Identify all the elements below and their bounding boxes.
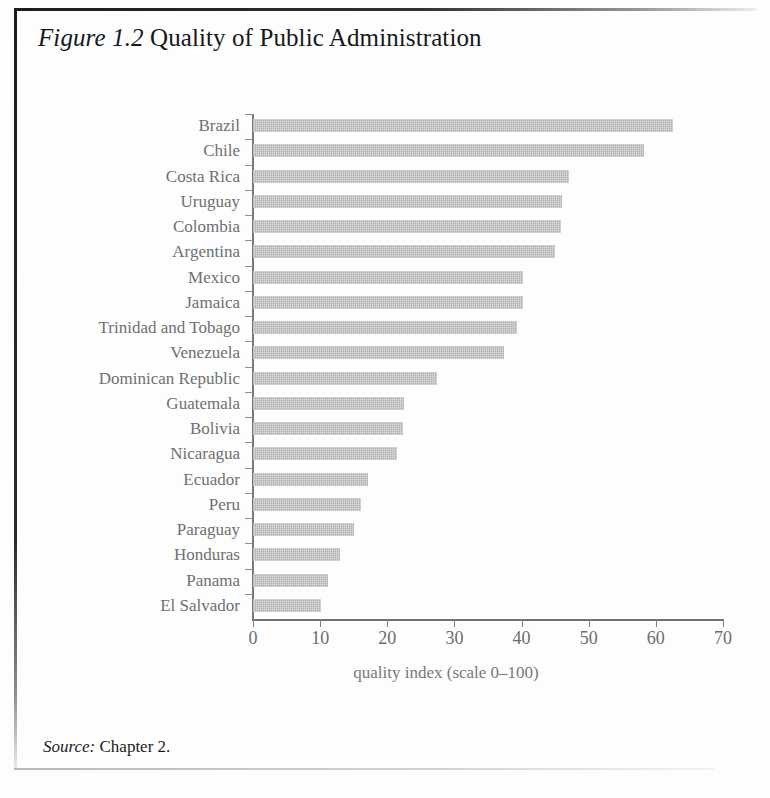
x-axis-tick-label: 50 bbox=[580, 628, 598, 649]
category-label: Ecuador bbox=[183, 470, 240, 490]
x-axis-tick-label: 70 bbox=[714, 628, 732, 649]
category-label: Brazil bbox=[198, 116, 240, 136]
bar bbox=[253, 397, 404, 410]
x-axis-tick-label: 40 bbox=[513, 628, 531, 649]
x-axis-tick-label: 20 bbox=[378, 628, 396, 649]
y-axis-tick bbox=[245, 392, 253, 393]
category-label: Honduras bbox=[174, 545, 240, 565]
category-label: Guatemala bbox=[166, 394, 240, 414]
x-axis-title: quality index (scale 0–100) bbox=[0, 663, 770, 683]
x-axis-tick-label: 0 bbox=[249, 628, 258, 649]
source-text: Chapter 2. bbox=[100, 737, 171, 756]
category-label: Paraguay bbox=[177, 520, 240, 540]
category-label: Venezuela bbox=[170, 343, 240, 363]
x-axis-tick-label: 60 bbox=[647, 628, 665, 649]
y-axis-tick bbox=[245, 190, 253, 191]
category-label: Nicaragua bbox=[170, 444, 240, 464]
y-axis-tick bbox=[245, 114, 253, 115]
bar bbox=[253, 296, 523, 309]
x-axis-title-text: quality index (scale 0–100) bbox=[353, 663, 539, 683]
y-axis-tick bbox=[245, 139, 253, 140]
bar bbox=[253, 346, 504, 359]
bar bbox=[253, 447, 397, 460]
bar bbox=[253, 220, 561, 233]
y-axis-tick bbox=[245, 569, 253, 570]
bar bbox=[253, 321, 517, 334]
category-label: Trinidad and Tobago bbox=[99, 318, 240, 338]
bar bbox=[253, 548, 340, 561]
x-axis-tick-label: 10 bbox=[311, 628, 329, 649]
bar bbox=[253, 422, 403, 435]
x-axis-tick bbox=[320, 619, 321, 627]
bar bbox=[253, 523, 354, 536]
category-label: Jamaica bbox=[185, 293, 240, 313]
bar bbox=[253, 271, 523, 284]
y-axis-tick bbox=[245, 543, 253, 544]
category-label: Peru bbox=[209, 495, 240, 515]
bar bbox=[253, 170, 569, 183]
y-axis-tick bbox=[245, 165, 253, 166]
x-axis-tick bbox=[656, 619, 657, 627]
category-label: Colombia bbox=[173, 217, 240, 237]
x-axis-tick bbox=[522, 619, 523, 627]
source-note: Source: Chapter 2. bbox=[43, 737, 170, 757]
bar bbox=[253, 473, 368, 486]
x-axis-tick bbox=[454, 619, 455, 627]
bar bbox=[253, 498, 361, 511]
category-label: Panama bbox=[186, 571, 240, 591]
x-axis-tick-label: 30 bbox=[445, 628, 463, 649]
bar bbox=[253, 599, 321, 612]
category-label: Dominican Republic bbox=[99, 369, 240, 389]
y-axis-tick bbox=[245, 266, 253, 267]
y-axis-tick bbox=[245, 594, 253, 595]
y-axis-tick bbox=[245, 341, 253, 342]
category-label: Argentina bbox=[172, 242, 240, 262]
y-axis-tick bbox=[245, 493, 253, 494]
bar bbox=[253, 245, 555, 258]
category-label: Bolivia bbox=[190, 419, 240, 439]
category-axis-labels: BrazilChileCosta RicaUruguayColombiaArge… bbox=[0, 114, 246, 619]
y-axis-tick bbox=[245, 367, 253, 368]
y-axis-tick bbox=[245, 442, 253, 443]
y-axis-tick bbox=[245, 518, 253, 519]
bar bbox=[253, 372, 437, 385]
bar bbox=[253, 144, 644, 157]
category-label: Chile bbox=[203, 141, 240, 161]
y-axis-tick bbox=[245, 417, 253, 418]
bar-chart: BrazilChileCosta RicaUruguayColombiaArge… bbox=[0, 0, 770, 798]
category-label: Costa Rica bbox=[166, 167, 240, 187]
bar bbox=[253, 574, 328, 587]
category-label: Mexico bbox=[188, 268, 240, 288]
y-axis-tick bbox=[245, 240, 253, 241]
figure-page: Figure 1.2 Quality of Public Administrat… bbox=[0, 0, 770, 798]
x-axis-tick bbox=[589, 619, 590, 627]
x-axis-tick bbox=[387, 619, 388, 627]
y-axis-tick bbox=[245, 291, 253, 292]
source-label: Source: bbox=[43, 737, 95, 756]
x-axis-tick bbox=[253, 619, 254, 627]
x-axis-line bbox=[252, 619, 724, 621]
category-label: El Salvador bbox=[160, 596, 240, 616]
y-axis-tick bbox=[245, 215, 253, 216]
bar bbox=[253, 195, 562, 208]
bar bbox=[253, 119, 673, 132]
x-axis-tick bbox=[723, 619, 724, 627]
plot-area bbox=[253, 114, 723, 619]
y-axis-tick bbox=[245, 468, 253, 469]
y-axis-tick bbox=[245, 316, 253, 317]
category-label: Uruguay bbox=[181, 192, 240, 212]
